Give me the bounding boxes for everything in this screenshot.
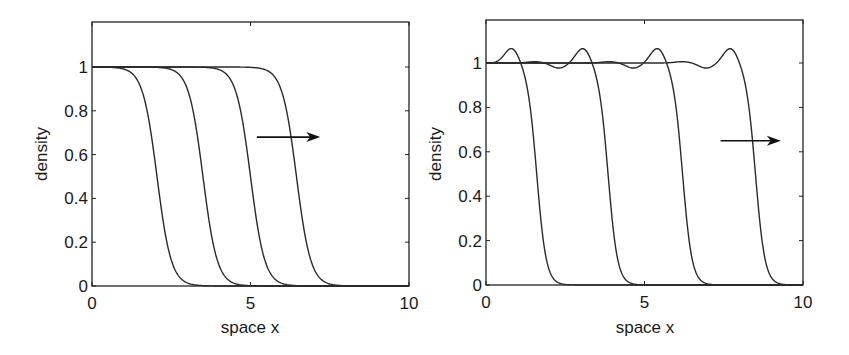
y-tick-label: 0.8 (458, 98, 482, 117)
right-plot-panel: 00.20.40.60.810510 space x density (426, 20, 812, 337)
y-tick-label: 0.2 (458, 232, 482, 251)
y-tick-label: 0.6 (64, 146, 88, 165)
x-tick-label: 5 (640, 293, 649, 312)
y-tick-label: 1 (79, 58, 88, 77)
left-plot-axes-box (92, 22, 409, 286)
x-tick-label: 0 (481, 293, 490, 312)
right-plot-ylabel: density (426, 127, 445, 181)
left-plot-arrow (257, 132, 320, 142)
left-plot-ticks (92, 22, 409, 286)
x-tick-label: 10 (400, 294, 419, 313)
y-tick-label: 1 (473, 54, 482, 73)
y-tick-label: 0.2 (64, 233, 88, 252)
left-plot-ylabel: density (32, 127, 51, 181)
y-tick-label: 0.4 (458, 187, 482, 206)
x-tick-label: 0 (87, 294, 96, 313)
density-curve-t3 (92, 67, 409, 286)
left-plot-xlabel: space x (221, 318, 280, 337)
y-tick-label: 0.4 (64, 189, 88, 208)
right-plot-axes-box (486, 20, 803, 285)
left-plot-tick-labels: 00.20.40.60.810510 (64, 58, 418, 313)
left-plot-curves (92, 67, 409, 286)
y-tick-label: 0.6 (458, 143, 482, 162)
y-tick-label: 0.8 (64, 102, 88, 121)
x-tick-label: 5 (246, 294, 255, 313)
density-curve-t4 (486, 49, 803, 285)
right-plot-xlabel: space x (616, 318, 675, 337)
right-plot-curves (486, 49, 803, 285)
right-plot-ticks (486, 20, 803, 285)
left-plot-panel: 00.20.40.60.810510 space x density (32, 22, 418, 337)
x-tick-label: 10 (794, 293, 813, 312)
right-plot-tick-labels: 00.20.40.60.810510 (458, 54, 812, 312)
figure: 00.20.40.60.810510 space x density 00.20… (0, 0, 849, 355)
right-plot-arrow (721, 136, 781, 146)
